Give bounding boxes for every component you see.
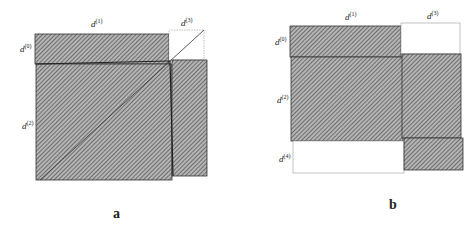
block-b-top-left [290, 26, 401, 57]
label-a-d0: d(0) [20, 43, 32, 54]
panel-a: d(0) d(1) d(2) d(3) a [20, 17, 207, 221]
caption-a: a [113, 206, 120, 221]
caption-b: b [389, 197, 397, 212]
label-b-d1: d(1) [345, 11, 357, 22]
block-b-top-right-empty [401, 23, 460, 54]
block-b-bottom-right [404, 138, 463, 170]
label-a-d3: d(3) [181, 17, 193, 28]
label-a-d2: d(2) [22, 120, 34, 131]
label-b-d2: d(2) [277, 94, 289, 105]
label-a-d1: d(1) [91, 18, 103, 29]
panel-b: d(0) d(1) d(2) d(3) d(4) b [275, 10, 463, 212]
block-b-middle-right [402, 54, 461, 138]
block-a-top-left [35, 34, 169, 64]
block-b-middle-left [291, 57, 403, 141]
label-b-d0: d(0) [275, 36, 287, 47]
label-b-d4: d(4) [279, 153, 291, 164]
label-b-d3: d(3) [427, 10, 439, 21]
block-a-right-column [172, 60, 207, 176]
diagram-canvas: d(0) d(1) d(2) d(3) a d(0) d(1) d(2) d(3… [0, 0, 476, 232]
block-b-bottom-left-empty [293, 141, 404, 173]
